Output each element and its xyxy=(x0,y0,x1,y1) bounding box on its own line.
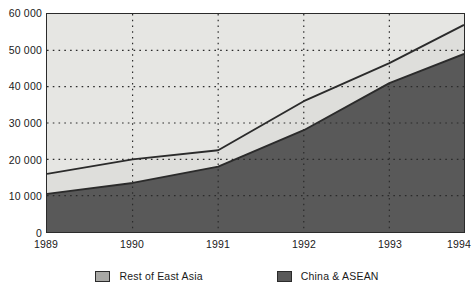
y-tick-label-10000: 10 000 xyxy=(0,191,42,201)
legend-swatch-rest-of-east-asia xyxy=(95,271,110,282)
x-tick-label-1991: 1991 xyxy=(206,238,230,250)
x-tick-label-1993: 1993 xyxy=(378,238,402,250)
y-tick-label-0: 0 xyxy=(0,228,42,238)
chart-legend: Rest of East Asia China & ASEAN xyxy=(0,266,474,286)
x-tick-label-1994: 1994 xyxy=(447,238,471,250)
stacked-area-chart: 60 000 50 000 40 000 30 000 20 000 10 00… xyxy=(0,0,474,292)
y-axis: 60 000 50 000 40 000 30 000 20 000 10 00… xyxy=(0,0,42,246)
legend-item-rest-of-east-asia: Rest of East Asia xyxy=(95,270,202,282)
x-axis: 1989 1990 1991 1992 1993 1994 xyxy=(0,238,474,256)
legend-swatch-china-and-asean xyxy=(277,271,292,282)
x-tick-label-1990: 1990 xyxy=(120,238,144,250)
legend-label-rest-of-east-asia: Rest of East Asia xyxy=(119,270,202,282)
x-tick-label-1992: 1992 xyxy=(292,238,316,250)
y-tick-label-50000: 50 000 xyxy=(0,45,42,55)
plot-area xyxy=(46,13,465,233)
y-tick-label-60000: 60 000 xyxy=(0,8,42,18)
legend-label-china-and-asean: China & ASEAN xyxy=(301,270,379,282)
y-tick-label-20000: 20 000 xyxy=(0,155,42,165)
x-tick-label-1989: 1989 xyxy=(34,238,58,250)
plot-svg xyxy=(47,14,464,232)
legend-item-china-and-asean: China & ASEAN xyxy=(277,270,379,282)
y-tick-label-40000: 40 000 xyxy=(0,81,42,91)
y-tick-label-30000: 30 000 xyxy=(0,118,42,128)
